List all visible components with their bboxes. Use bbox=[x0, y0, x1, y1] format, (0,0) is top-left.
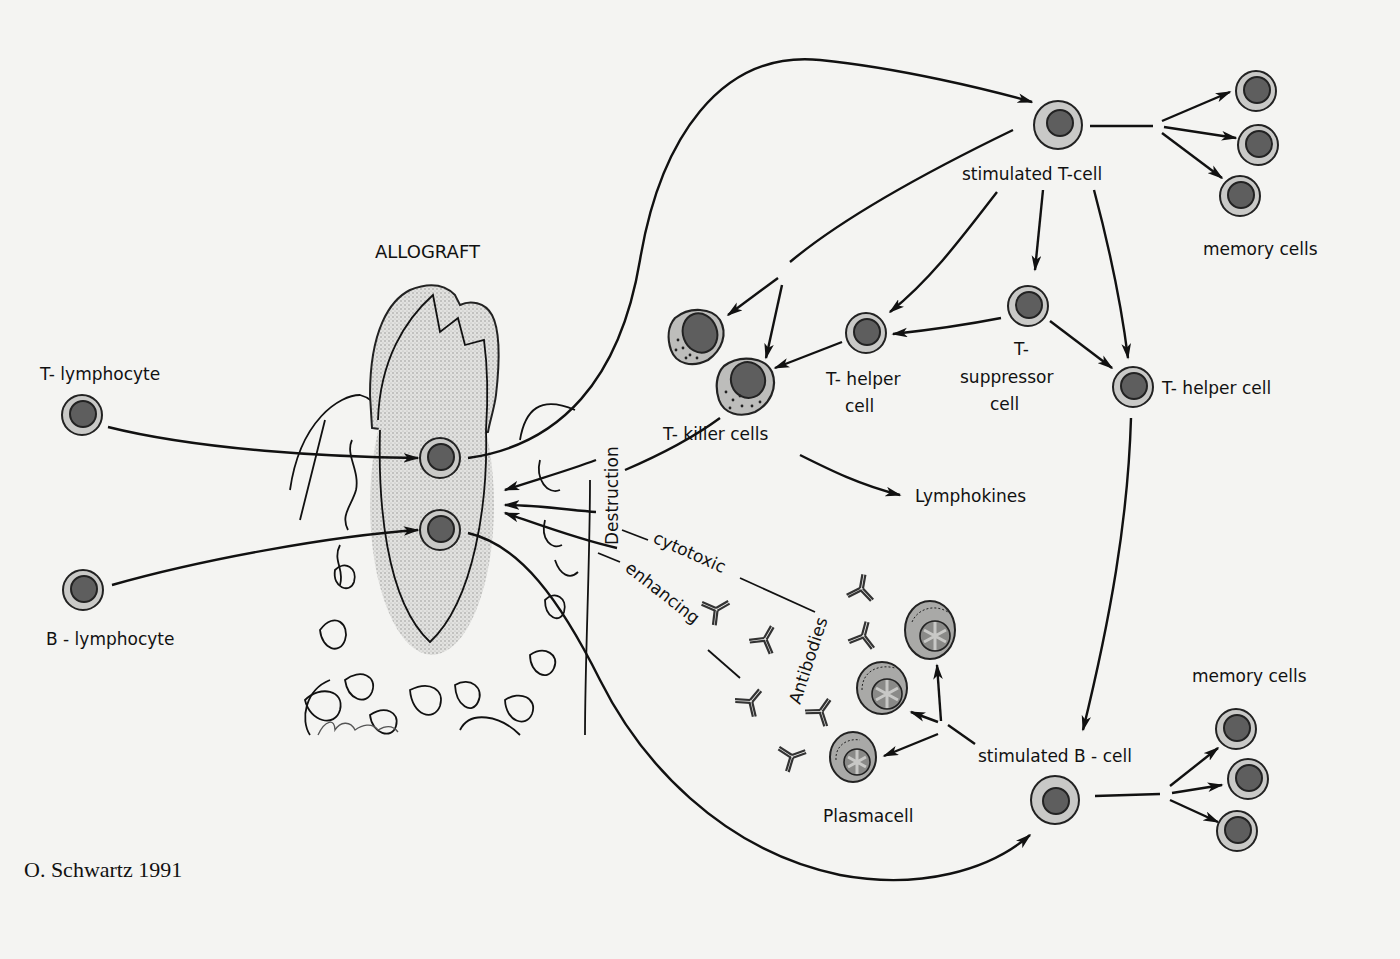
line-t-to-killer-branch bbox=[790, 130, 1013, 262]
arrow-to-memory-b-1 bbox=[1170, 748, 1218, 786]
b-lymphocyte-label: B - lymphocyte bbox=[46, 629, 174, 649]
arrow-to-memory-b-3 bbox=[1170, 800, 1218, 822]
arrow-to-memory-t-3 bbox=[1162, 133, 1222, 178]
line-enhancing-2 bbox=[708, 650, 740, 678]
stimulated-b-cell bbox=[1031, 776, 1079, 824]
arrow-to-memory-t-1 bbox=[1162, 92, 1230, 121]
t-helper-cell-1-label-line1: T- helper bbox=[825, 369, 901, 389]
memory-cell-t-3 bbox=[1220, 176, 1260, 216]
t-suppressor-label-line3: cell bbox=[990, 394, 1019, 414]
memory-cells-bottom-label: memory cells bbox=[1192, 666, 1307, 686]
memory-cells-top-label: memory cells bbox=[1203, 239, 1318, 259]
arrow-t-to-suppressor bbox=[1035, 190, 1043, 270]
stimulated-t-cell-label: stimulated T-cell bbox=[962, 164, 1102, 184]
t-suppressor-label-line1: T- bbox=[1013, 339, 1029, 359]
t-helper-cell-1-label-line2: cell bbox=[845, 396, 874, 416]
arrow-suppressor-to-helper-2 bbox=[1050, 321, 1112, 368]
plasmacell-2 bbox=[857, 662, 907, 714]
arrow-to-memory-b-2 bbox=[1172, 785, 1222, 793]
allograft-tooth bbox=[290, 285, 590, 735]
t-suppressor-label-line2: suppressor bbox=[960, 367, 1053, 387]
plasmacell-3 bbox=[830, 732, 876, 782]
t-killer-cells-label: T- killer cells bbox=[662, 424, 768, 444]
arrow-killer-to-lymphokines bbox=[800, 455, 900, 495]
t-helper-cell-2-label: T- helper cell bbox=[1161, 378, 1271, 398]
b-lymphocyte-cell bbox=[63, 570, 103, 610]
stimulated-b-cell-label: stimulated B - cell bbox=[978, 746, 1132, 766]
t-helper-cell-2 bbox=[1113, 367, 1153, 407]
antibodies-label: Antibodies bbox=[785, 615, 832, 707]
arrow-t-lymphocyte-to-graft bbox=[108, 427, 418, 458]
t-helper-cell-1 bbox=[846, 313, 886, 353]
memory-cell-b-2 bbox=[1228, 759, 1268, 799]
graft-cell-t bbox=[420, 438, 460, 478]
line-b-to-plasma bbox=[948, 725, 975, 744]
memory-cell-t-2 bbox=[1238, 125, 1278, 165]
memory-cell-b-3 bbox=[1217, 811, 1257, 851]
destruction-label: Destruction bbox=[602, 446, 622, 545]
arrow-helper-1-to-killer bbox=[775, 342, 842, 368]
arrow-b-to-plasma-2 bbox=[911, 712, 938, 722]
enhancing-label: enhancing bbox=[622, 557, 704, 627]
line-cytotoxic-2 bbox=[740, 578, 815, 612]
t-suppressor-cell bbox=[1008, 286, 1048, 326]
memory-cell-b-1 bbox=[1216, 709, 1256, 749]
arrow-suppressor-to-helper-1 bbox=[893, 318, 1001, 334]
cytotoxic-label: cytotoxic bbox=[650, 527, 729, 577]
arrow-b-to-plasma-1 bbox=[937, 665, 941, 721]
arrow-cytotoxic-to-graft bbox=[505, 505, 596, 512]
arrow-b-to-plasma-3 bbox=[884, 734, 938, 756]
allograft-label: ALLOGRAFT bbox=[375, 241, 481, 262]
credit-text: O. Schwartz 1991 bbox=[24, 857, 182, 882]
stimulated-t-cell bbox=[1034, 101, 1082, 149]
arrow-enhancing-to-graft bbox=[505, 513, 617, 548]
line-b-to-memory bbox=[1095, 794, 1160, 796]
arrow-t-to-helper-2 bbox=[1094, 190, 1128, 358]
memory-cell-t-1 bbox=[1236, 71, 1276, 111]
allograft-immune-response-diagram: ALLOGRAFT T- lymphocyte B - lymphocyte s… bbox=[0, 0, 1400, 959]
arrow-to-killer-2 bbox=[766, 285, 782, 358]
arrow-destruction-to-graft bbox=[505, 460, 596, 490]
line-enhancing-1 bbox=[598, 553, 620, 562]
t-killer-cell-2 bbox=[717, 357, 774, 414]
arrow-helper-2-to-b-cell bbox=[1083, 418, 1131, 730]
arrow-to-memory-t-2 bbox=[1164, 127, 1236, 138]
t-lymphocyte-label: T- lymphocyte bbox=[39, 364, 160, 384]
line-cytotoxic-1 bbox=[622, 530, 648, 540]
plasmacell-label: Plasmacell bbox=[823, 806, 913, 826]
arrow-graft-to-stimulated-b-cell bbox=[468, 533, 1030, 880]
arrow-to-killer-1 bbox=[728, 278, 778, 315]
t-killer-cell-1 bbox=[669, 308, 724, 364]
t-lymphocyte-cell bbox=[62, 395, 102, 435]
lymphokines-label: Lymphokines bbox=[915, 486, 1026, 506]
plasmacell-1 bbox=[905, 601, 955, 659]
arrow-t-to-helper-1 bbox=[890, 192, 997, 312]
graft-cell-b bbox=[420, 510, 460, 550]
